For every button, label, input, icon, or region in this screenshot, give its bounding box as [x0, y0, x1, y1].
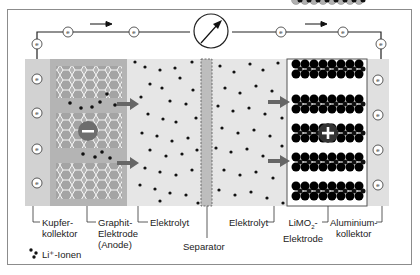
label-aluminium: Aluminium-kollektor	[330, 217, 378, 239]
anode-charge-icon	[78, 121, 98, 141]
cathode-charge-icon	[318, 123, 338, 143]
ammeter-icon	[194, 14, 228, 48]
separator	[201, 59, 212, 206]
label-separator: Separator	[183, 241, 225, 252]
label-kupfer: Kupfer-kollektor	[42, 217, 77, 239]
li-ion-legend-icon	[29, 248, 37, 258]
label-elektrolyt-left: Elektrolyt	[150, 217, 189, 228]
legend-li-ionen: Li⁺-Ionen	[42, 249, 81, 260]
label-elektrolyt-right: Elektrolyt	[229, 217, 268, 228]
label-limo2: LiMO2-Elektrode	[283, 217, 323, 244]
label-graphit: Graphit-Elektrode(Anode)	[98, 217, 138, 250]
